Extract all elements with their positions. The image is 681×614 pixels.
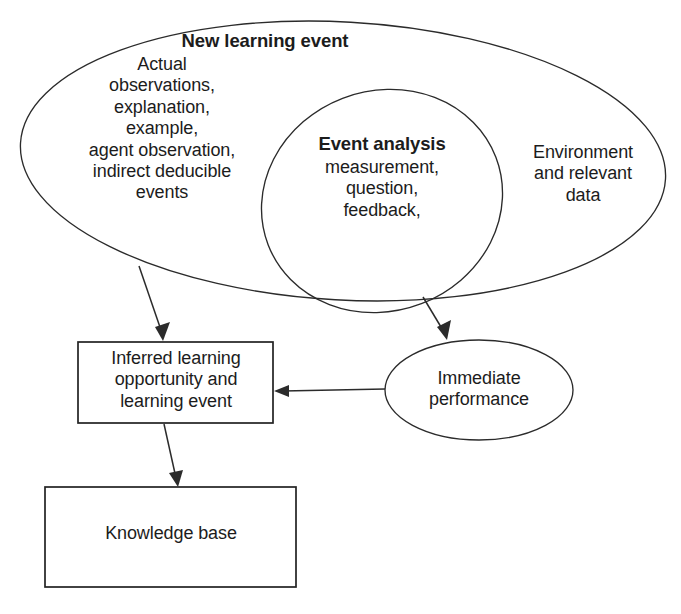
- new-learning-event-title: New learning event: [140, 30, 390, 52]
- inferred-learning-body: Inferred learning opportunity and learni…: [80, 348, 272, 412]
- edge-inferred-to-knowledge-arrow: [164, 424, 183, 487]
- event-analysis-body: measurement, question, feedback,: [292, 157, 472, 221]
- immediate-performance-body: Immediate performance: [399, 368, 559, 411]
- new-learning-event-body: Actual observations, explanation, exampl…: [36, 54, 288, 204]
- knowledge-base-body: Knowledge base: [47, 523, 295, 544]
- edge-nle-to-immediate-arrow: [423, 297, 451, 340]
- edge-immediate-to-inferred-arrow: [274, 385, 385, 397]
- event-analysis-title: Event analysis: [292, 133, 472, 155]
- environment-body: Environment and relevant data: [503, 142, 663, 206]
- edge-nle-to-inferred-arrow: [139, 266, 170, 341]
- diagram-canvas: New learning event Actual observations, …: [0, 0, 681, 614]
